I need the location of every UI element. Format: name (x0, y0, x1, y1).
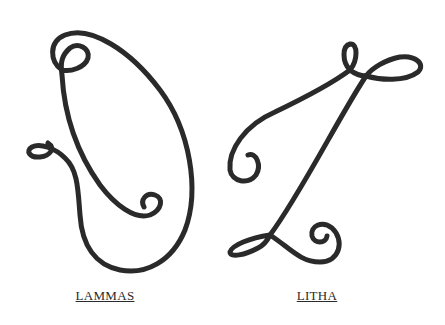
lammas-label: LAMMAS (60, 288, 150, 304)
lammas-sigil-icon (29, 33, 192, 271)
sigil-drawings (0, 0, 445, 325)
litha-label: LITHA (272, 288, 362, 304)
litha-sigil-icon (230, 44, 421, 262)
